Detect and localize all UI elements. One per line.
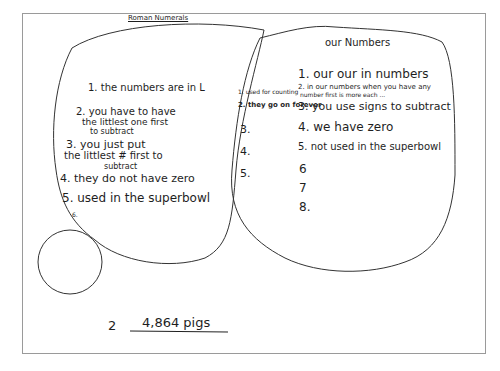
roman-item-2a: 2. you have to have xyxy=(76,107,176,117)
roman-item-2b: the littlest one first xyxy=(82,118,168,127)
overlap-item-3: 3. xyxy=(240,124,251,135)
small-circle xyxy=(38,230,102,294)
roman-numerals-title: Roman Numerals xyxy=(128,15,188,22)
our-item-8: 8. xyxy=(299,201,310,213)
overlap-item-1: 1. used for counting xyxy=(238,89,298,95)
roman-item-2c: to subtract xyxy=(90,128,134,136)
overlap-item-4: 4. xyxy=(240,146,251,157)
our-numbers-title: our Numbers xyxy=(325,38,390,48)
roman-item-4: 4. they do not have zero xyxy=(60,173,195,184)
answer-value: 4,864 pigs xyxy=(142,316,210,329)
our-item-5: 5. not used in the superbowl xyxy=(298,142,441,152)
overlap-item-5: 5. xyxy=(240,168,251,179)
our-item-4: 4. we have zero xyxy=(298,121,393,133)
our-item-3: 3. you use signs to subtract xyxy=(298,101,451,112)
roman-item-5: 5. used in the superbowl xyxy=(62,192,210,204)
our-item-7: 7 xyxy=(299,182,307,194)
our-item-2b: number first is more each ... xyxy=(300,92,385,98)
answer-underline xyxy=(130,331,228,332)
our-item-2a: 2. in our numbers when you have any xyxy=(298,84,431,91)
roman-item-3b: the littlest # first to xyxy=(64,151,163,161)
roman-item-1: 1. the numbers are in L xyxy=(88,83,205,93)
answer-number: 2 xyxy=(108,319,116,332)
roman-item-3c: subtract xyxy=(104,163,137,171)
roman-item-6: 6. xyxy=(72,212,78,218)
venn-diagram-lines xyxy=(0,0,500,371)
our-item-1: 1. our our in numbers xyxy=(298,68,429,80)
roman-item-3a: 3. you just put xyxy=(66,139,146,150)
our-item-6: 6 xyxy=(299,163,307,175)
